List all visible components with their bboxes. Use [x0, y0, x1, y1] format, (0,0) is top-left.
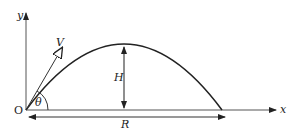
projectile-diagram: O y x V θ H R	[0, 0, 296, 133]
range-label: R	[120, 118, 129, 131]
x-axis-label: x	[280, 103, 287, 116]
velocity-label: V	[56, 36, 65, 49]
velocity-vector	[26, 48, 62, 110]
y-axis-label: y	[16, 9, 24, 22]
diagram-svg: O y x V θ H R	[0, 0, 296, 133]
max-height-label: H	[113, 71, 124, 84]
angle-label: θ	[35, 96, 42, 109]
origin-label: O	[14, 104, 23, 117]
